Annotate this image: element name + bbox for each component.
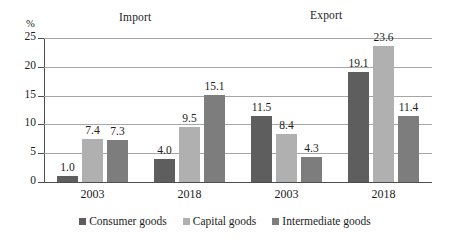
bar-value-label: 7.3 <box>101 125 134 137</box>
bar-chart: Import Export % 0510152025 1.07.47.34.09… <box>0 0 450 242</box>
y-axis-tick-label: 0 <box>2 174 36 186</box>
legend-item[interactable]: Consumer goods <box>79 215 167 227</box>
x-axis-line <box>44 182 432 183</box>
bar <box>107 140 128 182</box>
bar-value-label: 4.3 <box>295 142 328 154</box>
group-header-import: Import <box>119 11 152 23</box>
y-axis-tick-label: 5 <box>2 145 36 157</box>
y-axis-tick-label: 20 <box>2 59 36 71</box>
legend-item[interactable]: Capital goods <box>183 215 257 227</box>
bar <box>204 95 225 182</box>
bar <box>179 127 200 182</box>
legend-item[interactable]: Intermediate goods <box>272 215 370 227</box>
y-axis-tick-mark <box>38 67 44 68</box>
legend-swatch-icon <box>272 218 279 225</box>
legend-swatch-icon <box>183 218 190 225</box>
x-axis-category-label: 2003 <box>58 187 128 202</box>
bar <box>154 159 175 182</box>
y-axis-tick-mark <box>38 96 44 97</box>
y-axis-tick-mark <box>38 153 44 154</box>
y-axis-tick-mark <box>38 124 44 125</box>
legend-label: Consumer goods <box>89 215 167 227</box>
bar-value-label: 8.4 <box>270 119 303 131</box>
bar-value-label: 11.4 <box>392 101 425 113</box>
bar-value-label: 19.1 <box>342 57 375 69</box>
bar <box>301 157 322 182</box>
legend-label: Intermediate goods <box>282 215 370 227</box>
y-axis-unit-label: % <box>26 18 35 29</box>
y-axis-tick-label: 15 <box>2 88 36 100</box>
bar-value-label: 11.5 <box>245 101 278 113</box>
legend-swatch-icon <box>79 218 86 225</box>
y-axis-tick-labels: 0510152025 <box>0 38 36 182</box>
x-axis-category-label: 2018 <box>155 187 225 202</box>
bar-value-label: 23.6 <box>367 31 400 43</box>
y-axis-tick-label: 25 <box>2 30 36 42</box>
bar-value-label: 4.0 <box>148 144 181 156</box>
bar <box>82 139 103 182</box>
bar <box>398 116 419 182</box>
bar <box>348 72 369 182</box>
x-axis-category-label: 2003 <box>252 187 322 202</box>
x-axis-category-label: 2018 <box>349 187 419 202</box>
legend-label: Capital goods <box>193 215 257 227</box>
bar <box>276 134 297 182</box>
y-axis-tick-label: 10 <box>2 116 36 128</box>
bar <box>251 116 272 182</box>
y-axis-tick-mark <box>38 38 44 39</box>
bar-value-label: 9.5 <box>173 112 206 124</box>
plot-area: 1.07.47.34.09.515.111.58.44.319.123.611.… <box>44 38 432 182</box>
bar-value-label: 1.0 <box>51 161 84 173</box>
y-axis-tick-mark <box>38 182 44 183</box>
bar-value-label: 15.1 <box>198 80 231 92</box>
group-header-export: Export <box>310 9 343 21</box>
bar <box>373 46 394 182</box>
chart-legend: Consumer goodsCapital goodsIntermediate … <box>0 215 450 227</box>
